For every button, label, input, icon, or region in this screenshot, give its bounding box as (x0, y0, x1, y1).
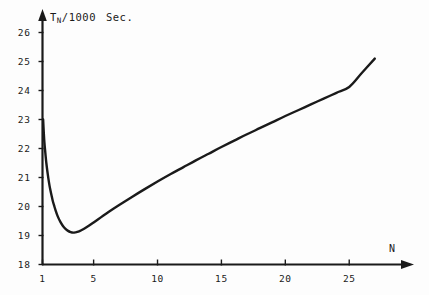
y-tick-label: 24 (9, 85, 31, 96)
chart-figure: TN/1000Sec. N 181920212223242526 1510152… (0, 0, 429, 295)
y-tick-label: 21 (9, 172, 31, 183)
data-series-line (43, 59, 375, 233)
x-tick-label: 20 (272, 273, 298, 284)
y-tick-label: 23 (9, 114, 31, 125)
plot-area (0, 0, 429, 295)
y-axis-arrow-icon (38, 9, 47, 21)
y-tick-label: 26 (9, 27, 31, 38)
y-axis-title: TN/1000Sec. (50, 11, 133, 25)
y-tick-label: 19 (9, 230, 31, 241)
y-axis-title-scale: /1000 (62, 11, 96, 23)
x-axis-arrow-icon (401, 260, 414, 269)
y-axis-title-main: T (50, 11, 57, 23)
x-tick-label: 15 (208, 273, 234, 284)
x-tick-label: 10 (145, 273, 171, 284)
x-axis-title: N (389, 243, 395, 254)
x-tick-label: 25 (336, 273, 362, 284)
y-axis-title-units: Sec. (106, 11, 133, 23)
y-tick-label: 22 (9, 143, 31, 154)
x-tick-label: 5 (81, 273, 107, 284)
y-tick-label: 20 (9, 201, 31, 212)
y-tick-label: 18 (9, 259, 31, 270)
y-tick-label: 25 (9, 56, 31, 67)
x-tick-label: 1 (30, 273, 56, 284)
